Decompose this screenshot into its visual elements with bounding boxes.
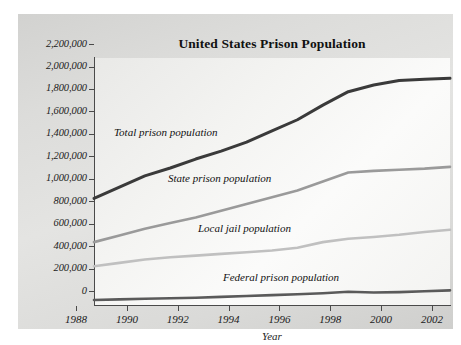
y-tick-label: 1,000,000 — [18, 172, 87, 185]
y-tick — [89, 111, 94, 112]
x-tick-label: 1992 — [155, 313, 201, 325]
x-tick-label: 1998 — [307, 313, 353, 325]
chart-figure: United States Prison Population 0200,000… — [0, 0, 461, 345]
x-tick — [432, 306, 433, 311]
x-tick — [178, 306, 179, 311]
x-tick — [381, 306, 382, 311]
chart-panel: United States Prison Population 0200,000… — [18, 14, 453, 329]
x-tick — [127, 306, 128, 311]
series-label-state-prison-population: State prison population — [168, 172, 271, 184]
y-tick-label: 600,000 — [18, 217, 87, 230]
y-tick — [89, 246, 94, 247]
y-tick — [89, 201, 94, 202]
x-tick — [279, 306, 280, 311]
x-tick-label: 1994 — [206, 313, 252, 325]
y-tick-label-text: 1,800,000 — [19, 82, 87, 93]
x-tick — [229, 306, 230, 311]
y-tick-label: 2,000,000 — [18, 60, 87, 73]
y-axis-line — [94, 57, 95, 306]
x-axis-title: Year — [94, 330, 450, 342]
y-tick — [89, 67, 94, 68]
y-tick — [89, 44, 94, 45]
y-tick-label-text: 1,200,000 — [19, 150, 87, 161]
y-tick-label-text: 800,000 — [19, 195, 87, 206]
y-tick — [89, 224, 94, 225]
y-tick — [89, 89, 94, 90]
y-tick-label-text: 1,000,000 — [19, 172, 87, 183]
y-tick — [89, 179, 94, 180]
x-tick-label: 1990 — [104, 313, 150, 325]
y-tick-label: 1,200,000 — [18, 150, 87, 163]
y-tick — [89, 291, 94, 292]
x-tick-label: 2000 — [358, 313, 404, 325]
x-tick — [330, 306, 331, 311]
y-tick-label: 200,000 — [18, 262, 87, 275]
y-tick-label-text: 400,000 — [19, 240, 87, 251]
y-tick — [89, 156, 94, 157]
series-label-federal-prison-population: Federal prison population — [223, 271, 339, 283]
x-axis-line — [94, 305, 451, 306]
y-tick-label: 1,600,000 — [18, 105, 87, 118]
series-label-local-jail-population: Local jail population — [198, 222, 291, 234]
y-tick-label: 800,000 — [18, 195, 87, 208]
y-tick-label-text: 600,000 — [19, 217, 87, 228]
y-tick-label-text: 200,000 — [19, 262, 87, 273]
y-tick-label: 2,200,000 — [18, 38, 87, 51]
y-tick-label: 400,000 — [18, 240, 87, 253]
y-tick — [89, 269, 94, 270]
x-tick-label: 2002 — [409, 313, 455, 325]
y-tick-label-text: 2,200,000 — [19, 38, 87, 49]
y-tick-label: 1,400,000 — [18, 127, 87, 140]
y-tick-label-text: 2,000,000 — [19, 60, 87, 71]
y-tick-label-text: 0 — [19, 285, 87, 296]
plot-area — [94, 58, 450, 305]
chart-title: United States Prison Population — [94, 36, 450, 52]
x-tick — [76, 306, 77, 311]
x-tick-label: 1988 — [53, 313, 99, 325]
y-tick — [89, 134, 94, 135]
y-tick-label-text: 1,400,000 — [19, 127, 87, 138]
y-tick-label-text: 1,600,000 — [19, 105, 87, 116]
y-tick-label: 1,800,000 — [18, 82, 87, 95]
x-tick-label: 1996 — [256, 313, 302, 325]
y-tick-label: 0 — [18, 285, 87, 298]
series-label-total-prison-population: Total prison population — [114, 126, 218, 138]
